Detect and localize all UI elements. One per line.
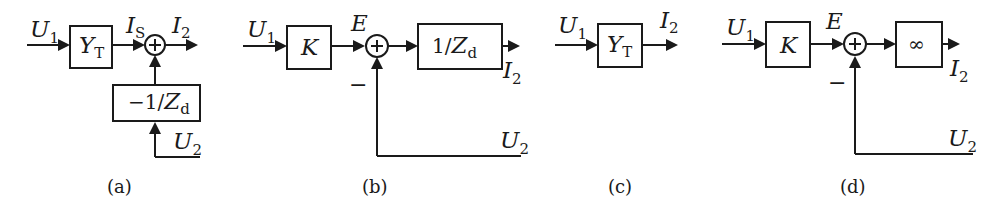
signal-u1-label: U1	[247, 16, 276, 47]
signal-e-label: E	[350, 10, 368, 36]
arrow-icon	[666, 39, 678, 51]
panel-c: U1 YT I2 (c)	[555, 7, 679, 197]
block-diagram-figure: U1 YT IS I2 −1/Zd U2 (a) U1 K E	[0, 0, 990, 212]
arrow-icon	[884, 38, 896, 50]
signal-u2-label: U2	[173, 128, 202, 159]
negative-sign: −	[349, 72, 367, 97]
block-k-label: K	[300, 34, 320, 60]
arrow-icon	[275, 40, 287, 52]
signal-u2-label: U2	[500, 127, 529, 158]
signal-i2-label: I2	[171, 12, 191, 42]
arrow-icon	[754, 38, 766, 50]
arrow-icon	[406, 40, 418, 52]
arrow-icon	[586, 39, 598, 51]
signal-i2-label: I2	[949, 55, 969, 86]
arrow-icon	[371, 57, 383, 69]
signal-u1-label: U1	[726, 14, 755, 45]
arrow-icon	[832, 38, 844, 50]
signal-u1-label: U1	[30, 16, 59, 47]
panel-b: U1 K E 1/Zd I2 − U2 (b)	[243, 10, 529, 197]
panel-caption: (c)	[608, 176, 632, 197]
negative-sign: −	[828, 70, 846, 95]
signal-is-label: IS	[125, 12, 145, 42]
panel-caption: (d)	[840, 176, 866, 197]
arrow-icon	[508, 40, 520, 52]
arrow-icon	[353, 40, 365, 52]
signal-i2-label: I2	[659, 7, 679, 37]
arrow-icon	[149, 122, 161, 134]
signal-u1-label: U1	[558, 12, 587, 43]
arrow-icon	[849, 56, 861, 68]
block-k-label: K	[779, 32, 799, 58]
signal-e-label: E	[825, 8, 843, 34]
signal-u2-label: U2	[948, 125, 977, 156]
block-infinite-gain-label: ∞	[908, 32, 925, 56]
signal-i2-label: I2	[502, 57, 522, 88]
panel-d: U1 K E ∞ I2 − U2 (d)	[722, 8, 977, 197]
panel-caption: (b)	[362, 176, 388, 197]
arrow-icon	[149, 55, 161, 67]
arrow-icon	[948, 38, 960, 50]
arrow-icon	[58, 39, 70, 51]
panel-caption: (a)	[107, 176, 132, 197]
panel-a: U1 YT IS I2 −1/Zd U2 (a)	[27, 12, 202, 197]
